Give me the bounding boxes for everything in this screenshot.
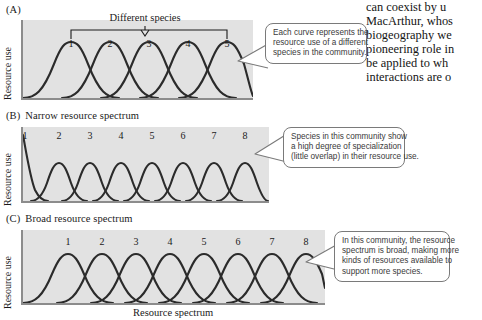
body-text-line-6: interactions are o xyxy=(366,70,482,84)
panel-c-y-axis xyxy=(21,230,23,305)
panel-b-callout-line-2: a high degree of specialization xyxy=(291,142,398,152)
panel-c-callout-line-1: In this community, the resource xyxy=(342,236,443,246)
body-text-line-3: biogeography we xyxy=(366,28,482,42)
panel-b-callout: Species in this community show a high de… xyxy=(283,127,405,168)
panel-a-curve-number-3: 3 xyxy=(147,38,152,49)
panel-c-label: (C)Broad resource spectrum xyxy=(6,213,133,224)
panel-a-callout-line-1: Each curve represents the xyxy=(273,28,360,38)
panel-b-callout-line-1: Species in this community show xyxy=(291,132,398,142)
panel-c-curve-number-5: 5 xyxy=(202,236,207,247)
panel-a-callout-line-3: species in the community. xyxy=(273,48,360,58)
panel-b-curve-number-5: 5 xyxy=(150,130,155,141)
panel-c-callout-line-4: support more species. xyxy=(342,267,443,277)
panel-a-x-axis xyxy=(21,98,253,100)
panel-b-tag: (B) xyxy=(6,110,20,121)
panel-b-curve-number-3: 3 xyxy=(88,130,93,141)
panel-b-curve-number-2: 2 xyxy=(57,130,62,141)
figure-xlabel: Resource spectrum xyxy=(133,307,213,318)
panel-b-curve-number-6: 6 xyxy=(181,130,186,141)
panel-c-curve-number-7: 7 xyxy=(270,236,275,247)
panel-b-ylabel: Resource use xyxy=(2,130,13,206)
panel-b-curve-number-1: 1 xyxy=(23,130,28,141)
panel-a-callout-line-2: resource use of a different xyxy=(273,38,360,48)
panel-c-curve-number-3: 3 xyxy=(134,236,139,247)
panel-a-curve-number-1: 1 xyxy=(69,38,74,49)
panel-b-label: (B)Narrow resource spectrum xyxy=(6,110,139,121)
panel-c-callout: In this community, the resource spectrum… xyxy=(334,231,450,282)
panel-a-species-bracket xyxy=(21,24,253,40)
figure-panel-group: (A) Resource use Different species 1 2 3… xyxy=(0,0,345,320)
panel-a-label: (A) xyxy=(6,4,26,15)
panel-a-callout: Each curve represents the resource use o… xyxy=(265,23,367,64)
panel-c-curve-number-6: 6 xyxy=(236,236,241,247)
body-text-column: can coexist by u MacArthur, whos biogeog… xyxy=(366,0,482,85)
panel-b-curve-number-7: 7 xyxy=(212,130,217,141)
panel-a-curve-number-2: 2 xyxy=(108,38,113,49)
panel-b-curve-number-8: 8 xyxy=(243,130,248,141)
panel-a-curve-number-4: 4 xyxy=(186,38,191,49)
panel-c-tag: (C) xyxy=(6,213,20,224)
panel-c-curve-number-1: 1 xyxy=(66,236,71,247)
body-text-line-2: MacArthur, whos xyxy=(366,14,482,28)
body-text-line-1: can coexist by u xyxy=(366,0,482,14)
panel-a-tag: (A) xyxy=(6,4,21,15)
panel-b-title: Narrow resource spectrum xyxy=(25,110,139,121)
body-text-line-5: be applied to wh xyxy=(366,56,482,70)
panel-c-callout-line-3: kinds of resources available to xyxy=(342,256,443,266)
panel-c-curve-number-2: 2 xyxy=(100,236,105,247)
panel-c-ylabel: Resource use xyxy=(2,233,13,309)
panel-a-curve-number-5: 5 xyxy=(225,38,230,49)
panel-c-callout-line-2: spectrum is broad, making more xyxy=(342,246,443,256)
panel-b-x-axis xyxy=(21,201,269,203)
panel-b-callout-line-3: (little overlap) in their resource use. xyxy=(291,152,398,162)
panel-c-curve-number-4: 4 xyxy=(168,236,173,247)
panel-c-title: Broad resource spectrum xyxy=(25,213,132,224)
body-text-line-4: pioneering role in xyxy=(366,42,482,56)
panel-a-bracket-label: Different species xyxy=(109,12,180,23)
panel-b-curve-number-4: 4 xyxy=(119,130,124,141)
panel-c-x-axis xyxy=(21,303,325,305)
panel-a-ylabel: Resource use xyxy=(2,24,13,100)
